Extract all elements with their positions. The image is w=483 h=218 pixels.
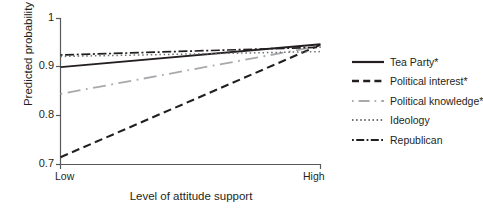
legend-label: Ideology xyxy=(390,114,430,126)
legend-label: Tea Party* xyxy=(390,56,438,68)
dashed-line-swatch xyxy=(352,75,384,87)
legend-item-political-knowledge[interactable]: Political knowledge* xyxy=(352,91,482,111)
legend-item-republican[interactable]: Republican xyxy=(352,130,482,150)
dash-dot-line-swatch xyxy=(352,134,384,146)
legend-label: Political interest* xyxy=(390,75,468,87)
series-line-political-interest xyxy=(61,45,321,157)
solid-line-swatch xyxy=(352,56,384,68)
legend-item-ideology[interactable]: Ideology xyxy=(352,111,482,131)
axis-lines xyxy=(56,18,321,169)
legend-item-tea-party[interactable]: Tea Party* xyxy=(352,52,482,72)
legend-label: Republican xyxy=(390,134,443,146)
dotted-line-swatch xyxy=(352,114,384,126)
data-series-layer xyxy=(61,44,321,157)
gray-dash-dot-line-swatch xyxy=(352,95,384,107)
legend-label: Political knowledge* xyxy=(390,95,483,107)
legend-item-political-interest[interactable]: Political interest* xyxy=(352,72,482,92)
chart-legend: Tea Party* Political interest* Political… xyxy=(352,52,482,150)
series-line-political-knowledge xyxy=(61,46,321,94)
